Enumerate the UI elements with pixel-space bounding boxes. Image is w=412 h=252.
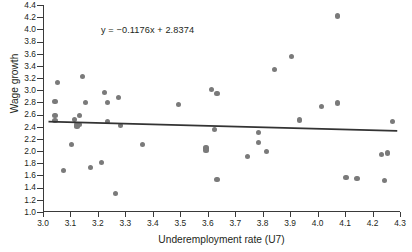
- y-axis-tick-label: 2.0: [9, 147, 36, 155]
- scatter-point: [52, 118, 57, 123]
- scatter-point: [214, 177, 219, 182]
- y-axis-tick-label: 1.2: [9, 196, 36, 204]
- scatter-point: [80, 74, 85, 79]
- x-axis-tick-label: 3.0: [28, 219, 58, 228]
- x-axis-tick-mark: [400, 212, 401, 217]
- y-axis-title: Wage growth: [9, 24, 20, 144]
- x-axis-tick-mark: [318, 212, 319, 217]
- x-axis-tick-label: 3.7: [220, 219, 250, 228]
- scatter-point: [272, 67, 277, 72]
- scatter-point: [256, 140, 261, 145]
- x-axis-title: Underemployment rate (U7): [43, 234, 400, 245]
- y-axis-tick-mark: [37, 127, 43, 128]
- x-axis-tick-mark: [235, 212, 236, 217]
- scatter-point: [382, 178, 387, 183]
- scatter-point: [264, 149, 269, 154]
- scatter-point: [105, 100, 110, 105]
- x-axis-tick-label: 3.6: [193, 219, 223, 228]
- scatter-point: [385, 150, 390, 155]
- scatter-point: [55, 80, 60, 85]
- scatter-point: [118, 123, 123, 128]
- scatter-point: [176, 102, 181, 107]
- scatter-point: [52, 99, 57, 104]
- x-axis-tick-mark: [290, 212, 291, 217]
- x-axis-tick-mark: [43, 212, 44, 217]
- scatter-point: [289, 54, 294, 59]
- scatter-point: [335, 13, 340, 18]
- scatter-point: [335, 100, 340, 105]
- x-axis-tick-mark: [373, 212, 374, 217]
- y-axis-tick-mark: [37, 17, 43, 18]
- y-axis-tick-label: 1.4: [9, 183, 36, 191]
- y-axis-tick-mark: [37, 200, 43, 201]
- scatter-point: [140, 142, 145, 147]
- scatter-point: [83, 100, 88, 105]
- scatter-point: [203, 148, 208, 153]
- plot-area: [43, 5, 400, 212]
- y-axis-tick-mark: [37, 102, 43, 103]
- y-axis-tick-label: 1.0: [9, 208, 36, 216]
- scatter-point: [390, 119, 395, 124]
- y-axis-tick-mark: [37, 115, 43, 116]
- x-axis-tick-label: 3.1: [55, 219, 85, 228]
- scatter-point: [343, 175, 348, 180]
- scatter-chart: 1.01.21.41.61.82.02.22.42.62.83.03.23.43…: [0, 0, 412, 252]
- scatter-point: [209, 87, 214, 92]
- y-axis-tick-mark: [37, 78, 43, 79]
- x-axis-tick-mark: [125, 212, 126, 217]
- x-axis-tick-mark: [70, 212, 71, 217]
- scatter-point: [61, 168, 66, 173]
- y-axis-tick-mark: [37, 90, 43, 91]
- x-axis-tick-label: 4.2: [358, 219, 388, 228]
- scatter-point: [88, 165, 93, 170]
- scatter-point: [354, 176, 359, 181]
- x-axis-tick-label: 3.5: [165, 219, 195, 228]
- scatter-point: [256, 130, 261, 135]
- y-axis-tick-label: 4.2: [9, 13, 36, 21]
- y-axis-tick-mark: [37, 139, 43, 140]
- y-axis-tick-mark: [37, 54, 43, 55]
- scatter-point: [77, 122, 82, 127]
- scatter-point: [77, 113, 82, 118]
- y-axis-tick-mark: [37, 188, 43, 189]
- x-axis-tick-label: 4.3: [385, 219, 412, 228]
- scatter-point: [297, 117, 302, 122]
- y-axis-tick-mark: [37, 42, 43, 43]
- scatter-point: [72, 117, 77, 122]
- scatter-point: [69, 142, 74, 147]
- scatter-point: [105, 119, 110, 124]
- x-axis-tick-mark: [98, 212, 99, 217]
- x-axis-tick-mark: [345, 212, 346, 217]
- x-axis-tick-label: 3.9: [275, 219, 305, 228]
- y-axis-tick-label: 1.6: [9, 171, 36, 179]
- y-axis-tick-mark: [37, 29, 43, 30]
- scatter-point: [116, 95, 121, 100]
- y-axis-tick-mark: [37, 163, 43, 164]
- y-axis-tick-label: 4.4: [9, 1, 36, 9]
- x-axis-tick-label: 3.3: [110, 219, 140, 228]
- y-axis-tick-mark: [37, 151, 43, 152]
- y-axis-tick-mark: [37, 175, 43, 176]
- y-axis-tick-mark: [37, 66, 43, 67]
- x-axis-tick-mark: [153, 212, 154, 217]
- scatter-point: [214, 91, 219, 96]
- scatter-point: [99, 160, 104, 165]
- regression-equation-annotation: y = −0.1176x + 2.8374: [101, 25, 194, 35]
- x-axis-tick-label: 3.8: [248, 219, 278, 228]
- x-axis-tick-label: 3.2: [83, 219, 113, 228]
- y-axis-tick-mark: [37, 5, 43, 6]
- scatter-point: [102, 90, 107, 95]
- scatter-point: [245, 154, 250, 159]
- scatter-point: [113, 191, 118, 196]
- x-axis-tick-mark: [180, 212, 181, 217]
- scatter-point: [319, 104, 324, 109]
- x-axis-tick-label: 4.1: [330, 219, 360, 228]
- scatter-point: [212, 127, 217, 132]
- x-axis-tick-label: 3.4: [138, 219, 168, 228]
- y-axis-tick-label: 1.8: [9, 159, 36, 167]
- x-axis-tick-mark: [263, 212, 264, 217]
- x-axis-tick-label: 4.0: [303, 219, 333, 228]
- scatter-point: [379, 152, 384, 157]
- x-axis-tick-mark: [208, 212, 209, 217]
